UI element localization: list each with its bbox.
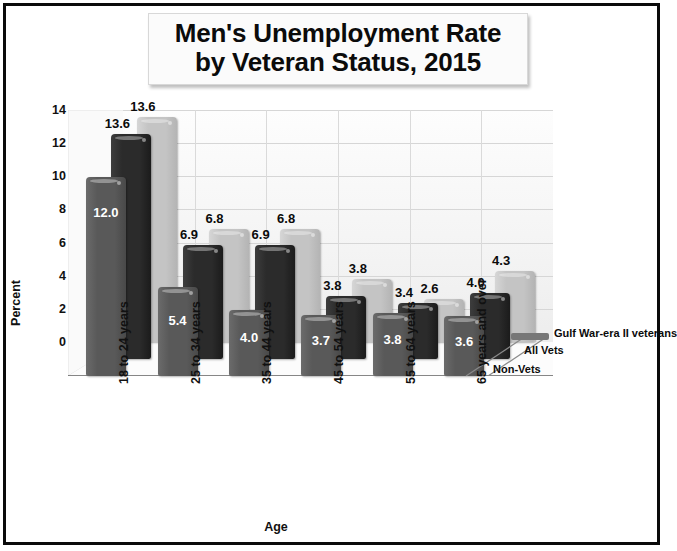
chart-title-line-1: Men's Unemployment Rate	[153, 19, 523, 48]
y-axis-tick-12: 12	[52, 136, 66, 150]
x-axis-label-18-to-24-years: 18 to 24 years	[117, 301, 131, 384]
chart-title-line-2: by Veteran Status, 2015	[153, 48, 523, 77]
series-label-non-vets: Non-Vets	[493, 363, 541, 375]
chart-title: Men's Unemployment Rate by Veteran Statu…	[148, 13, 528, 85]
y-axis-title: Percent	[9, 280, 23, 326]
y-axis-tick-8: 8	[59, 202, 66, 216]
x-axis-title: Age	[6, 520, 546, 534]
series-label-gulf-war: Gulf War-era II veterans	[554, 327, 677, 339]
x-axis-label-45-to-54-years: 45 to 54 years	[332, 301, 346, 384]
y-axis-tick-14: 14	[52, 103, 66, 117]
y-axis-tick-0: 0	[59, 335, 66, 349]
chart-frame: Men's Unemployment Rate by Veteran Statu…	[3, 3, 660, 545]
y-axis-tick-2: 2	[59, 302, 66, 316]
x-axis-label-65-years-and-over: 65 years and over	[475, 278, 489, 384]
gulf-war-swatch	[511, 333, 549, 340]
y-axis-tick-6: 6	[59, 236, 66, 250]
y-axis-tick-10: 10	[52, 169, 66, 183]
y-axis-tick-labels: 02468101214	[28, 110, 66, 376]
x-axis-label-55-to-64-years: 55 to 64 years	[404, 301, 418, 384]
x-axis-label-25-to-34-years: 25 to 34 years	[189, 301, 203, 384]
x-axis-label-35-to-44-years: 35 to 44 years	[260, 301, 274, 384]
series-label-all-vets: All Vets	[524, 344, 564, 356]
y-axis-tick-4: 4	[59, 269, 66, 283]
